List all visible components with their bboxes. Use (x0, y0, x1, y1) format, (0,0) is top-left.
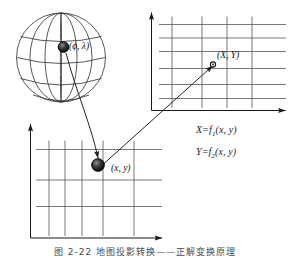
transform-formulas: X=f1(x, y) Y=f2(x, y) (196, 121, 237, 165)
projected-plane-point-label: (X, Y) (217, 51, 239, 61)
projected-plane-point-marker (210, 62, 215, 67)
formula-x-args: (x, y) (216, 124, 237, 135)
figure-caption: 图 2-22 地图投影转换——正解变换原理 (0, 245, 290, 258)
formula-y-equals: = (202, 146, 209, 157)
sphere-parallel-1 (21, 37, 102, 42)
sphere-meridian-center (60, 13, 61, 102)
sphere-meridian-2 (30, 13, 92, 102)
formula-y: Y=f2(x, y) (196, 143, 237, 165)
sphere-point-label: (ϕ, λ) (69, 42, 89, 52)
sphere-parallel-3 (21, 79, 102, 86)
sphere-point-marker (58, 42, 69, 53)
formula-x: X=f1(x, y) (196, 121, 237, 143)
source-plane-point-marker (92, 159, 105, 172)
projected-plane-grid (159, 17, 286, 109)
globe-sphere (17, 13, 106, 102)
source-plane-axes (31, 124, 163, 238)
source-plane-point-label: (x, y) (111, 164, 131, 174)
source-plane-grid (36, 141, 162, 237)
formula-y-args: (x, y) (215, 146, 236, 157)
sphere-meridian-1 (45, 13, 77, 102)
